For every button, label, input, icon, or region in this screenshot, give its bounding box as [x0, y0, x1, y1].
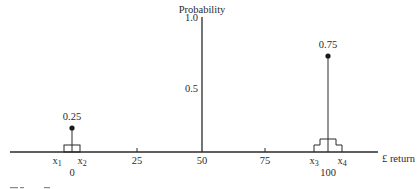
x-tick-label-25: 25 [132, 155, 143, 166]
x-axis-label: £ return [382, 153, 416, 164]
caption-fragment [10, 187, 50, 188]
probability-chart: 1.0 0.5 Probability 25 50 75 £ return 0.… [0, 0, 418, 189]
x-tick-label-50: 50 [197, 155, 208, 166]
x-tick-label-75: 75 [260, 155, 271, 166]
x2-label: x2 [77, 155, 86, 168]
point-0-x-label: 0 [69, 167, 74, 178]
point-0: 0.25 x1 x2 0 [52, 111, 86, 178]
x4-label: x4 [337, 155, 346, 168]
dot-100 [325, 53, 330, 58]
y-axis-label: Probability [179, 4, 226, 15]
dot-0 [69, 125, 74, 130]
point-100-x-label: 100 [320, 167, 336, 178]
point-100: 0.75 x3 x4 100 [309, 39, 346, 178]
x1-label: x1 [52, 155, 61, 168]
y-tick-label-0.5: 0.5 [185, 83, 198, 94]
point-0-value-label: 0.25 [63, 111, 81, 122]
x3-label: x3 [309, 155, 318, 168]
point-100-value-label: 0.75 [319, 39, 337, 50]
